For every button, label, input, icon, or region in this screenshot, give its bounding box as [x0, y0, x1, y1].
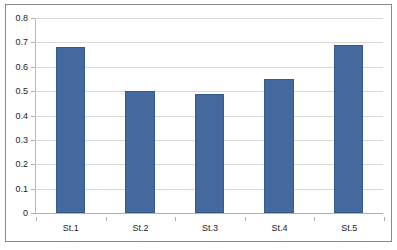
x-axis-labels: St.1St.2St.3St.4St.5	[36, 217, 384, 233]
bar-st2[interactable]	[125, 91, 154, 213]
bar-slot	[36, 18, 105, 213]
gridline	[35, 213, 383, 214]
chart-frame: 00.10.20.30.40.50.60.70.8 St.1St.2St.3St…	[5, 4, 392, 242]
bar-slot	[105, 18, 174, 213]
x-axis-tick-label: St.3	[175, 217, 245, 233]
bar-st3[interactable]	[195, 94, 224, 213]
y-axis-tick	[31, 164, 35, 165]
x-axis-tick-label: St.1	[36, 217, 106, 233]
x-axis-tick	[106, 217, 107, 221]
bar-series	[36, 18, 383, 213]
bar-st1[interactable]	[56, 47, 85, 213]
y-axis-tick-label: 0.3	[15, 135, 28, 144]
y-axis-tick-label: 0.5	[15, 87, 28, 96]
x-axis-tick	[245, 217, 246, 221]
chart-plot-wrapper: 00.10.20.30.40.50.60.70.8 St.1St.2St.3St…	[6, 5, 391, 241]
plot-area: 00.10.20.30.40.50.60.70.8	[35, 18, 383, 213]
y-axis-tick	[31, 42, 35, 43]
x-axis-tick	[36, 217, 37, 221]
y-axis-tick	[31, 67, 35, 68]
y-axis-tick	[31, 213, 35, 214]
bar-st4[interactable]	[264, 79, 293, 213]
y-axis-tick	[31, 116, 35, 117]
x-axis-tick-label: St.5	[314, 217, 384, 233]
x-axis-tick	[175, 217, 176, 221]
bar-st5[interactable]	[334, 45, 363, 213]
x-axis-tick	[314, 217, 315, 221]
x-axis-tick-label: St.4	[245, 217, 315, 233]
x-axis-tick	[384, 217, 385, 221]
y-axis-tick	[31, 91, 35, 92]
x-axis-tick-label: St.2	[106, 217, 176, 233]
bar-slot	[314, 18, 383, 213]
y-axis-tick-label: 0.8	[15, 14, 28, 23]
y-axis-tick-label: 0.4	[15, 111, 28, 120]
bar-slot	[244, 18, 313, 213]
bar-slot	[175, 18, 244, 213]
y-axis-tick-label: 0.7	[15, 38, 28, 47]
y-axis-tick	[31, 18, 35, 19]
y-axis-tick-label: 0.6	[15, 62, 28, 71]
y-axis-tick-label: 0.2	[15, 160, 28, 169]
y-axis-tick-label: 0.1	[15, 184, 28, 193]
y-axis-tick	[31, 189, 35, 190]
y-axis-tick	[31, 140, 35, 141]
y-axis-tick-label: 0	[23, 209, 28, 218]
